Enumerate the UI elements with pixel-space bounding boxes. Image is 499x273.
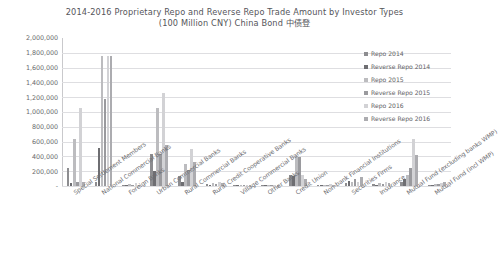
gridline xyxy=(62,171,451,172)
legend-item-label: Repo 2015 xyxy=(371,76,404,83)
y-axis-tick-label: 2,000,000 xyxy=(2,34,58,42)
y-axis-tick-label: 800,000 xyxy=(2,123,58,131)
gridline xyxy=(62,127,451,128)
legend-item[interactable]: Reverse Repo 2016 xyxy=(364,112,464,125)
y-axis-tick-label: 1,600,000 xyxy=(2,64,58,72)
bar-group xyxy=(317,38,335,186)
legend-swatch-icon xyxy=(364,117,368,121)
chart-title-line-1: 2014-2016 Proprietary Repo and Reverse R… xyxy=(0,7,469,18)
chart-title: 2014-2016 Proprietary Repo and Reverse R… xyxy=(0,7,469,29)
bar-group xyxy=(289,38,307,186)
legend-swatch-icon xyxy=(364,52,368,56)
legend-item-label: Repo 2014 xyxy=(371,50,404,57)
chart-legend: Repo 2014Reverse Repo 2014Repo 2015Rever… xyxy=(364,47,464,125)
legend-item-label: Reverse Repo 2014 xyxy=(371,63,430,70)
y-axis-tick-label: 400,000 xyxy=(2,153,58,161)
x-axis-labels: Special Settlement MembersNational Comme… xyxy=(0,186,469,273)
legend-swatch-icon xyxy=(364,65,368,69)
legend-swatch-icon xyxy=(364,104,368,108)
legend-item-label: Reverse Repo 2015 xyxy=(371,89,430,96)
bar-group xyxy=(67,38,85,186)
bar xyxy=(73,139,76,186)
legend-swatch-icon xyxy=(364,91,368,95)
y-axis-tick-label: 200,000 xyxy=(2,168,58,176)
legend-item[interactable]: Repo 2014 xyxy=(364,47,464,60)
y-axis-tick-label: 1,400,000 xyxy=(2,79,58,87)
legend-item[interactable]: Repo 2015 xyxy=(364,73,464,86)
legend-item-label: Repo 2016 xyxy=(371,102,404,109)
y-axis-tick-label: 1,800,000 xyxy=(2,49,58,57)
legend-item-label: Reverse Repo 2016 xyxy=(371,115,430,122)
chart-title-line-2: (100 Million CNY) China Bond 中债登 xyxy=(0,18,469,29)
bar xyxy=(79,108,82,186)
legend-item[interactable]: Reverse Repo 2014 xyxy=(364,60,464,73)
legend-item[interactable]: Repo 2016 xyxy=(364,99,464,112)
y-axis-tick-label: 1,200,000 xyxy=(2,94,58,102)
bar-group xyxy=(150,38,168,186)
legend-item[interactable]: Reverse Repo 2015 xyxy=(364,86,464,99)
y-axis-tick-label: 600,000 xyxy=(2,138,58,146)
y-axis-tick-label: 1,000,000 xyxy=(2,108,58,116)
legend-swatch-icon xyxy=(364,78,368,82)
